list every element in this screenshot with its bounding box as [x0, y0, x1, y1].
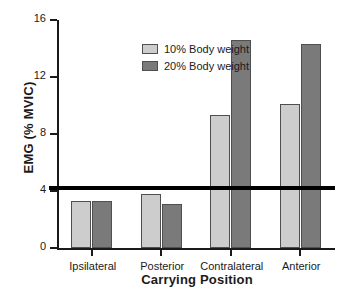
x-axis-tick-label: Anterior — [253, 260, 342, 272]
bar — [210, 115, 230, 248]
legend-label: 20% Body weight — [164, 60, 249, 72]
bar — [71, 201, 91, 248]
bar — [162, 204, 182, 248]
x-axis-tick — [91, 248, 93, 256]
y-axis-tick-label: 0 — [40, 239, 46, 253]
bar — [141, 194, 161, 248]
reference-line — [49, 186, 335, 190]
legend-item: 10% Body weight — [142, 42, 249, 56]
y-axis-tick: 16 — [50, 19, 57, 21]
legend-swatch — [142, 61, 158, 71]
legend-label: 10% Body weight — [164, 43, 249, 55]
y-axis-tick: 0 — [50, 247, 57, 249]
y-axis-tick-label: 16 — [34, 11, 46, 25]
y-axis-tick-label: 8 — [40, 125, 46, 139]
y-axis-line — [57, 20, 59, 249]
x-axis-tick — [160, 248, 162, 256]
legend: 10% Body weight20% Body weight — [142, 42, 249, 76]
y-axis-tick: 8 — [50, 133, 57, 135]
bar — [301, 44, 321, 248]
y-axis-tick: 4 — [50, 190, 57, 192]
legend-swatch — [142, 44, 158, 54]
x-axis-tick — [230, 248, 232, 256]
bar — [92, 201, 112, 248]
plot-area: 0481216 IpsilateralPosteriorContralatera… — [57, 20, 335, 248]
y-axis-tick-label: 4 — [40, 182, 46, 196]
bar-chart-figure: EMG (% MVIC) Carrying Position 0481216 I… — [0, 0, 342, 295]
x-axis-tick — [299, 248, 301, 256]
y-axis-tick-label: 12 — [34, 68, 46, 82]
x-axis-title: Carrying Position — [57, 272, 337, 287]
bar — [280, 104, 300, 248]
x-axis-line — [57, 248, 335, 250]
legend-item: 20% Body weight — [142, 59, 249, 73]
y-axis-tick: 12 — [50, 76, 57, 78]
